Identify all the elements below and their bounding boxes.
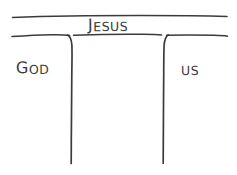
label-god-rest: OD	[29, 61, 50, 76]
label-jesus-rest: ESUS	[93, 18, 128, 33]
label-us-lead: U	[181, 62, 191, 77]
label-us-rest: S	[191, 62, 200, 77]
label-god-lead: G	[16, 58, 29, 77]
left-leg-stroke	[68, 35, 72, 163]
second-rule-middle-segment	[74, 34, 162, 35]
label-god: GOD	[16, 58, 50, 77]
sketch-diagram: JESUS GOD US	[0, 0, 237, 175]
second-rule-left-segment	[12, 35, 70, 37]
label-jesus: JESUS	[88, 15, 128, 34]
second-rule-right-segment	[167, 35, 228, 36]
label-us: US	[181, 59, 199, 78]
right-leg-stroke	[163, 35, 168, 163]
